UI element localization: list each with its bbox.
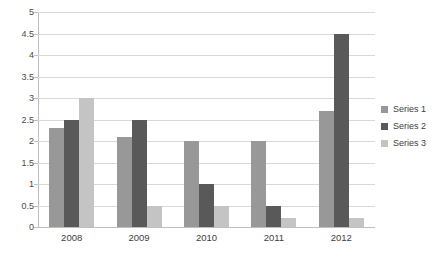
- bar[interactable]: [49, 128, 64, 227]
- legend-swatch-icon: [381, 123, 388, 130]
- bar[interactable]: [199, 184, 214, 227]
- bar[interactable]: [251, 141, 266, 227]
- bar[interactable]: [214, 206, 229, 228]
- gridline: [38, 227, 375, 228]
- legend-item[interactable]: Series 3: [381, 135, 443, 152]
- y-axis-tick-labels: 00.511.522.533.544.55: [0, 12, 34, 227]
- y-tick-label: 0.5: [4, 201, 34, 210]
- bar[interactable]: [79, 98, 94, 227]
- bar[interactable]: [117, 137, 132, 227]
- bar[interactable]: [132, 120, 147, 228]
- bar[interactable]: [266, 206, 281, 228]
- bar-group: [319, 12, 364, 227]
- y-tick-label: 1: [4, 180, 34, 189]
- bar-group: [49, 12, 94, 227]
- y-tick-label: 3: [4, 94, 34, 103]
- y-tick-label: 0: [4, 223, 34, 232]
- bar[interactable]: [64, 120, 79, 228]
- y-tick-label: 4.5: [4, 29, 34, 38]
- x-tick-label: 2008: [61, 231, 82, 244]
- x-axis-tick-labels: 20082009201020112012: [38, 231, 375, 247]
- bar-chart: 00.511.522.533.544.55 200820092010201120…: [0, 0, 444, 257]
- x-tick-label: 2011: [264, 231, 284, 244]
- y-tick-label: 2.5: [4, 115, 34, 124]
- bar[interactable]: [281, 218, 296, 227]
- legend-item[interactable]: Series 1: [381, 101, 443, 118]
- bar[interactable]: [334, 34, 349, 228]
- bar[interactable]: [349, 218, 364, 227]
- y-tick-label: 4: [4, 51, 34, 60]
- chart-legend: Series 1Series 2Series 3: [381, 101, 443, 152]
- legend-item[interactable]: Series 2: [381, 118, 443, 135]
- y-tick-label: 3.5: [4, 72, 34, 81]
- legend-swatch-icon: [381, 106, 388, 113]
- legend-label: Series 3: [393, 139, 426, 148]
- y-tick-label: 2: [4, 137, 34, 146]
- x-tick-label: 2009: [129, 231, 150, 244]
- bar-group: [184, 12, 229, 227]
- y-tick-label: 5: [4, 8, 34, 17]
- bar[interactable]: [319, 111, 334, 227]
- bar[interactable]: [184, 141, 199, 227]
- bar-group: [117, 12, 162, 227]
- legend-label: Series 2: [393, 122, 426, 131]
- legend-label: Series 1: [393, 105, 426, 114]
- x-tick-label: 2010: [196, 231, 217, 244]
- x-tick-label: 2012: [331, 231, 352, 244]
- bar[interactable]: [147, 206, 162, 228]
- y-tick-label: 1.5: [4, 158, 34, 167]
- plot-area: [38, 12, 375, 227]
- bar-group: [251, 12, 296, 227]
- legend-swatch-icon: [381, 140, 388, 147]
